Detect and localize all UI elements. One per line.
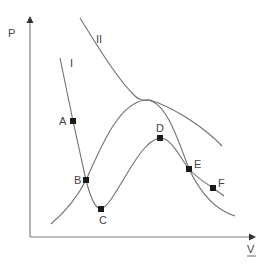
curve-i-label: I xyxy=(70,57,73,69)
point-c-label: C xyxy=(99,214,107,226)
point-c: C xyxy=(98,206,107,226)
pv-diagram: P V I II A B C D E F xyxy=(0,0,270,275)
point-d-marker-icon xyxy=(157,135,163,141)
point-c-marker-icon xyxy=(98,206,104,212)
point-d-label: D xyxy=(156,122,164,134)
y-axis-arrow-icon xyxy=(27,16,34,23)
point-f-label: F xyxy=(218,177,225,189)
point-e: E xyxy=(186,158,201,172)
point-a-marker-icon xyxy=(70,118,76,124)
point-e-label: E xyxy=(194,158,201,170)
y-axis-label: P xyxy=(8,27,15,39)
x-axis-label: V xyxy=(247,243,255,255)
coexistence-dome xyxy=(51,100,235,224)
point-d: D xyxy=(156,122,164,141)
point-a-label: A xyxy=(59,115,67,127)
point-b-label: B xyxy=(74,174,81,186)
point-f: F xyxy=(210,177,225,191)
x-axis-arrow-icon xyxy=(249,234,256,241)
axes xyxy=(27,16,257,241)
curve-ii-label: II xyxy=(96,33,102,45)
point-f-marker-icon xyxy=(210,185,216,191)
point-e-marker-icon xyxy=(186,166,192,172)
point-b-marker-icon xyxy=(83,177,89,183)
